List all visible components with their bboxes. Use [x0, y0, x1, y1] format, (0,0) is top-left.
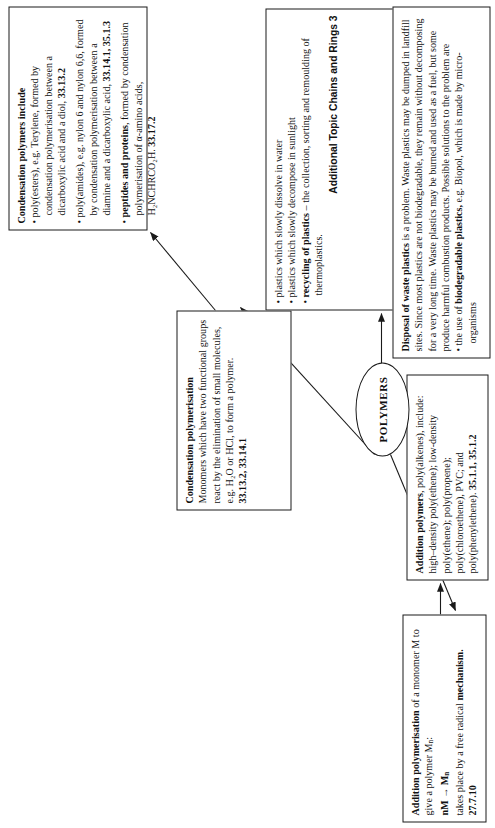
node-addition-polymerisation: Addition polymerisation of a monomer M t… — [402, 614, 486, 822]
plastics-bullet-3: • recycling of plastics – the collection… — [298, 15, 325, 303]
condensation-polymerisation-body: Monomers which have two functional group… — [195, 317, 248, 503]
addition-polymerisation-equation-text: nM → M — [438, 775, 449, 815]
condensation-polymerisation-heading: Condensation polymerisation — [182, 317, 195, 503]
additional-topic-footer: Additional Topic Chains and Rings 3 — [326, 15, 340, 303]
plastics-bullet-1-text: plastics which slowly dissolve in water — [272, 139, 283, 297]
disposal-bullet-bold: biodegradable plastics, — [452, 204, 463, 303]
condensation-polymers-bullet-1: • poly(esters), e.g. Terylene, formed by… — [27, 13, 67, 223]
condensation-polymers-bullet-3: • peptides and proteins, formed by conde… — [117, 13, 157, 223]
disposal-bullet-lead: the use of — [452, 303, 463, 345]
condensation-polymers-bullet-2: • poly(amides), e.g. nylon 6 and nylon 6… — [72, 13, 112, 223]
disposal-body: Disposal of waste plastics is a problem.… — [398, 13, 451, 351]
plastics-bullet-2: • plastics which slowly decompose in sun… — [284, 15, 297, 303]
node-plastics-and-recycling: • plastics which slowly dissolve in wate… — [265, 8, 395, 310]
hub-label: POLYMERS — [376, 376, 388, 442]
addition-polymerisation-body-1-tail: : — [422, 737, 433, 740]
condensation-polymers-heading-text: Condensation polymers include — [15, 87, 26, 223]
node-condensation-polymerisation: Condensation polymerisation Monomers whi… — [176, 310, 291, 510]
addition-polymers-ref: 35.1.1, 35.1.2 — [466, 434, 477, 490]
node-disposal-of-waste-plastics: Disposal of waste plastics is a problem.… — [392, 6, 490, 358]
addition-polymerisation-equation-sub: n — [443, 771, 451, 775]
addition-polymerisation-line-1: Addition polymerisation of a monomer M t… — [408, 621, 437, 815]
condensation-polymers-heading: Condensation polymers include — [14, 13, 27, 223]
condensation-polymerisation-body-text: Monomers which have two functional group… — [196, 319, 234, 503]
node-addition-polymers: Addition polymers, poly(alkenes), includ… — [406, 374, 488, 580]
node-condensation-polymers: Condensation polymers include • poly(est… — [8, 6, 147, 230]
addition-polymerisation-body-1-sub: n — [427, 739, 435, 743]
plastics-bullet-3-lead: recycling of plastics — [299, 212, 310, 296]
condensation-polymerisation-ref: 33.13.2, 33.14.1 — [236, 437, 247, 503]
bullet-3-lead: peptides and proteins — [118, 125, 129, 217]
addition-polymerisation-ref: 27.7.10 — [466, 785, 477, 815]
disposal-bullet-1: • the use of biodegradable plastics, e.g… — [451, 13, 478, 351]
addition-polymerisation-heading-text: Addition polymerisation — [409, 710, 420, 815]
hub-polymers: POLYMERS — [355, 362, 409, 456]
condensation-polymerisation-heading-text: Condensation polymerisation — [183, 377, 194, 503]
diagram-canvas: Condensation polymers include • poly(est… — [0, 0, 495, 828]
addition-polymerisation-equation: nM → Mn — [437, 621, 452, 815]
page-rotation-wrapper: Condensation polymers include • poly(est… — [0, 0, 495, 828]
bullet-2-ref: 33.14.1, 35.1.3 — [100, 20, 111, 81]
connector-condensation-polymerisation-to-polymers — [150, 232, 215, 310]
addition-polymers-heading-text: Addition polymers — [413, 493, 424, 573]
plastics-bullet-1: • plastics which slowly dissolve in wate… — [271, 15, 284, 303]
addition-polymers-body: Addition polymers, poly(alkenes), includ… — [412, 381, 479, 573]
disposal-heading-text: Disposal of waste plastics — [399, 242, 410, 351]
bullet-1-ref: 33.13.2 — [55, 68, 66, 98]
bullet-3-ref: 33.17.2 — [145, 116, 156, 146]
addition-polymerisation-line-2: takes place by a free radical mechanism.… — [452, 621, 479, 815]
plastics-bullet-2-text: plastics which slowly decompose in sunli… — [285, 117, 296, 297]
addition-polymerisation-body-2-bold: mechanism. — [453, 649, 464, 700]
addition-polymerisation-body-2: takes place by a free radical — [453, 700, 464, 815]
